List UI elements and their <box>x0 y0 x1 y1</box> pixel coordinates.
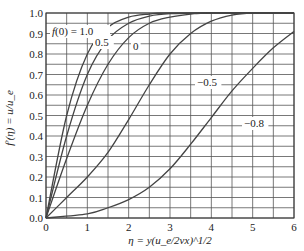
x-tick-label: 1 <box>85 221 91 233</box>
x-tick-label: 0 <box>43 221 49 233</box>
y-tick-label: 0.0 <box>29 212 43 224</box>
y-tick-label: 0.2 <box>29 171 43 183</box>
x-tick-label: 4 <box>209 221 215 233</box>
y-tick-label: 0.6 <box>29 89 43 101</box>
y-tick-label: 0.3 <box>29 151 43 163</box>
x-tick-label: 3 <box>167 221 173 233</box>
curve-label: 0.5 <box>95 36 109 48</box>
x-tick-label: 2 <box>126 221 132 233</box>
curve-label: f(0) = 1.0 <box>52 25 94 38</box>
y-axis-label: f′(η) = u/u_e <box>3 90 16 146</box>
y-tick-label: 0.4 <box>29 130 43 142</box>
y-tick-label: 0.9 <box>29 28 43 40</box>
y-tick-label: 1.0 <box>29 7 43 19</box>
curve-label: 0 <box>133 40 139 52</box>
y-tick-label: 0.5 <box>29 110 43 122</box>
x-tick-label: 6 <box>291 221 297 233</box>
y-tick-label: 0.8 <box>29 48 43 60</box>
chart: 01234560.00.10.20.30.40.50.60.70.80.91.0… <box>0 0 304 251</box>
x-tick-label: 5 <box>250 221 256 233</box>
curve-labels: f(0) = 1.00.50−0.5−0.8 <box>50 25 268 130</box>
y-tick-label: 0.7 <box>29 69 43 81</box>
x-axis-label: η = y(u_e/2νx)^1/2 <box>128 234 212 247</box>
curve-label: −0.5 <box>197 76 217 88</box>
y-tick-label: 0.1 <box>29 192 43 204</box>
curve-label: −0.8 <box>244 117 264 129</box>
